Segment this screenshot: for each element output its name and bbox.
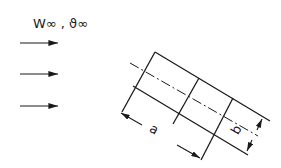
dimension-b: [247, 119, 262, 151]
plate-left-edge: [122, 52, 155, 112]
diagram-canvas: W∞ , ϑ∞ a b: [0, 0, 281, 168]
dimension-b-label: b: [228, 122, 245, 137]
plate-bottom-edge: [133, 86, 243, 152]
flow-arrows: [20, 43, 58, 106]
b-extension-top: [265, 118, 270, 121]
plate-body: [122, 52, 270, 160]
dimension-a-label: a: [147, 121, 161, 138]
flow-label: W∞ , ϑ∞: [33, 16, 88, 31]
b-extension-bottom: [243, 152, 248, 155]
plate-centerline: [130, 63, 258, 136]
